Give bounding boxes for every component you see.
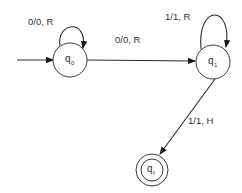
transition-label: 0/0, R [115,34,140,45]
state-label: q [65,53,71,64]
state-diagram: 0/0, R 0/0, R 1/1, R 1/1, H q 0 q 1 q f [0,0,242,193]
state-q0: q 0 [53,43,87,77]
transition-label: 1/1, R [165,11,190,22]
transition-label: 1/1, H [188,115,213,126]
transition-label: 0/0, R [28,16,53,27]
transition-q1-qf: 1/1, H [160,79,215,154]
state-label: q [147,163,153,174]
transition-q0-q0: 0/0, R [28,16,84,48]
state-label: q [208,55,214,66]
transition-q1-q1: 1/1, R [165,11,227,49]
transition-q0-q1: 0/0, R [87,34,195,61]
state-qf: q f [136,154,168,186]
state-q1: q 1 [196,45,230,79]
